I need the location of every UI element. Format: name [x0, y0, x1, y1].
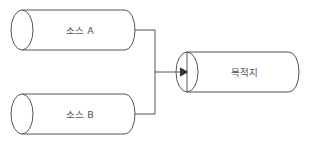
- destination-label: 목적지: [231, 67, 258, 78]
- source-a-label: 소스 A: [66, 25, 94, 36]
- cylinder-destination[interactable]: 목적지: [176, 52, 299, 92]
- cylinder-source-a[interactable]: 소스 A: [11, 10, 135, 50]
- cylinder-end-ellipse: [11, 10, 33, 50]
- source-b-label: 소스 B: [66, 109, 94, 120]
- cylinder-source-b[interactable]: 소스 B: [11, 94, 135, 134]
- cylinder-end-ellipse: [11, 94, 33, 134]
- merge-connector: [135, 30, 155, 114]
- diagram-canvas: 소스 A 소스 B 목적지: [0, 0, 309, 145]
